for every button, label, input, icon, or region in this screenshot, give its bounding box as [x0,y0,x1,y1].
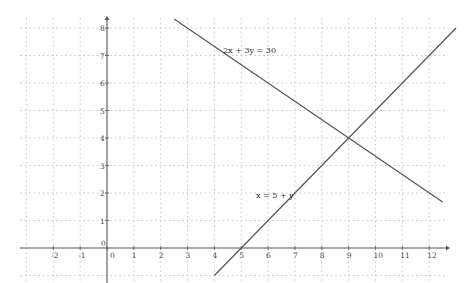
x-axis-arrow-icon [446,246,450,251]
x-tick-label: 6 [266,251,271,260]
tick-labels: -2-1012345678910111212345678 [51,24,437,260]
line2-label: x = 5 + y [256,191,294,200]
y-tick-label: 8 [100,24,105,33]
axes [20,16,450,283]
x-tick-label: 8 [320,251,325,260]
x-tick-label: 10 [374,251,384,260]
x-tick-label: 2 [159,251,164,260]
y-tick-label: 2 [100,189,105,198]
x-tick-label: 9 [347,251,352,260]
plotted-lines [174,19,456,276]
x-tick-label: 11 [400,251,410,260]
y-tick-label: 1 [100,217,105,226]
x-tick-label: 3 [186,251,191,260]
y-tick-label: 7 [100,52,105,61]
y-origin-label: 0 [101,239,106,248]
coordinate-plane: -2-1012345678910111212345678 2x + 3y = 3… [0,0,468,283]
y-tick-label: 6 [100,79,105,88]
grid-lines [20,18,446,283]
x-tick-label: 12 [427,251,437,260]
line1-label: 2x + 3y = 30 [223,46,276,55]
y-tick-label: 4 [100,134,105,143]
x-tick-label: 4 [212,251,217,260]
x-tick-label: -1 [78,251,85,260]
y-axis-arrow-icon [105,16,110,20]
x-tick-label: 1 [132,251,137,260]
x-tick-label: 0 [110,251,115,260]
y-tick-label: 5 [100,107,105,116]
x-tick-label: 5 [239,251,244,260]
x-tick-label: -2 [51,251,59,260]
x-tick-label: 7 [293,251,298,260]
line-x-eq-5-plus-y [214,28,456,276]
y-tick-label: 3 [100,162,105,171]
